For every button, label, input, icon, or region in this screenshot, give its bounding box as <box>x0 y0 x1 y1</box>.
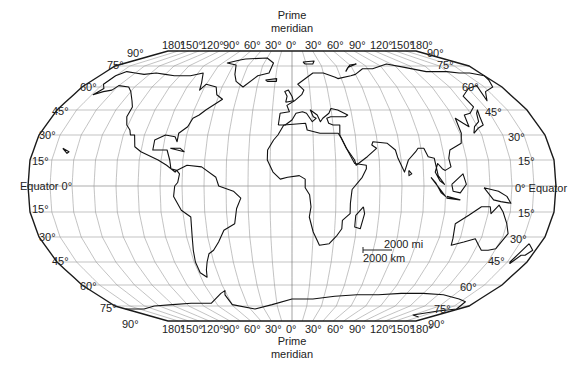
latitude-label: 60° <box>80 81 97 93</box>
longitude-label: 90° <box>349 323 366 335</box>
equator-label-left: Equator 0° <box>20 180 72 192</box>
longitude-label: 30° <box>305 39 322 51</box>
scale-miles-label: 2000 mi <box>384 238 423 250</box>
latitude-label: 60° <box>460 281 477 293</box>
latitude-label: 15° <box>518 207 535 219</box>
coastline <box>174 165 241 277</box>
equator-label-right: 0° Equator <box>515 182 567 194</box>
latitude-label: 30° <box>39 231 56 243</box>
longitude-label: 90° <box>349 39 366 51</box>
longitude-label: 150° <box>180 323 203 335</box>
coastline <box>409 170 412 175</box>
latitude-label: 75° <box>437 59 454 71</box>
coastline <box>266 79 277 82</box>
coastline <box>126 291 466 317</box>
latitude-label: 45° <box>485 106 502 118</box>
longitude-label: 30° <box>265 39 282 51</box>
meridian-word: meridian <box>252 348 332 361</box>
latitude-label: 15° <box>32 203 49 215</box>
latitude-label: 75° <box>100 302 117 314</box>
longitude-label: 30° <box>265 323 282 335</box>
prime-meridian-label-bottom: Prime meridian <box>252 335 332 361</box>
longitude-label: 30° <box>305 323 322 335</box>
latitude-label: 75° <box>434 303 451 315</box>
latitude-label: 60° <box>80 280 97 292</box>
latitude-label: 30° <box>39 129 56 141</box>
latitude-label: 45° <box>488 255 505 267</box>
longitude-label: 120° <box>370 323 393 335</box>
longitude-label: 120° <box>201 323 224 335</box>
coastline <box>346 64 357 72</box>
coastline <box>452 174 467 193</box>
latitude-label: 90° <box>427 47 444 59</box>
longitude-label: 90° <box>223 323 240 335</box>
coastline <box>170 148 184 151</box>
longitude-label: 0° <box>286 39 297 51</box>
coastline <box>484 188 511 204</box>
coastline <box>303 61 314 64</box>
latitude-label: 30° <box>510 233 527 245</box>
latitude-label: 90° <box>428 318 445 330</box>
latitude-label: 15° <box>518 155 535 167</box>
coastlines <box>63 58 533 317</box>
latitude-label: 75° <box>107 59 124 71</box>
longitude-label: 150° <box>180 39 203 51</box>
latitude-label: 90° <box>122 318 139 330</box>
longitude-label: 60° <box>327 39 344 51</box>
coastline <box>474 110 483 133</box>
latitude-label: 90° <box>127 47 144 59</box>
coastline <box>431 177 446 196</box>
prime-word: Prime <box>252 335 332 348</box>
prime-word: Prime <box>252 9 332 22</box>
latitude-label: 60° <box>462 81 479 93</box>
longitude-label: 60° <box>244 323 261 335</box>
coastline <box>63 148 69 153</box>
coastline <box>267 123 366 245</box>
latitude-label: 45° <box>52 255 69 267</box>
latitude-label: 30° <box>508 131 525 143</box>
longitude-label: 60° <box>244 39 261 51</box>
longitude-label: 120° <box>370 39 393 51</box>
coastline <box>227 58 273 87</box>
coastline <box>93 72 222 173</box>
coastline <box>447 196 460 200</box>
latitude-label: 45° <box>52 105 69 117</box>
longitude-label: 60° <box>327 323 344 335</box>
latitude-label: 15° <box>32 155 49 167</box>
prime-meridian-label-top: Prime meridian <box>252 9 332 35</box>
longitude-label: 120° <box>201 39 224 51</box>
longitude-label: 0° <box>286 323 297 335</box>
meridian-word: meridian <box>252 22 332 35</box>
scale-km-label: 2000 km <box>363 252 405 264</box>
longitude-label: 90° <box>223 39 240 51</box>
